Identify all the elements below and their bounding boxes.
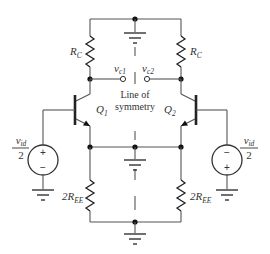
symmetry-label-line1: Line of — [120, 89, 150, 100]
source-right-numerator: vid — [244, 134, 255, 148]
q2-label: Q2 — [164, 103, 176, 118]
source-left-denominator: 2 — [18, 149, 24, 161]
resistor-rc-left — [86, 36, 94, 67]
ground-icon — [216, 190, 238, 200]
ground-icon — [124, 147, 146, 170]
ree-right-label: 2REE — [190, 190, 212, 205]
q1-label: Q1 — [96, 103, 108, 118]
rc-right-label: RC — [189, 45, 203, 60]
source-right-denominator: 2 — [246, 149, 252, 161]
transistor-q2 — [181, 79, 227, 147]
source-left-plus: + — [40, 147, 46, 158]
ground-icon — [32, 190, 54, 200]
symmetry-label-line2: symmetry — [115, 101, 155, 112]
ground-icon — [124, 222, 146, 244]
source-left-minus: − — [40, 162, 46, 173]
resistor-ree-right — [177, 180, 185, 211]
ree-left-label: 2REE — [62, 190, 84, 205]
ground-icon — [124, 19, 146, 43]
resistor-ree-left — [86, 180, 94, 211]
source-right-minus: − — [224, 147, 230, 158]
vc1-label: vc1 — [114, 62, 126, 76]
source-left-numerator: vid — [16, 134, 27, 148]
output-terminal-vc2 — [144, 76, 149, 81]
rc-left-label: RC — [69, 45, 83, 60]
vc2-label: vc2 — [142, 62, 154, 76]
output-terminal-vc1 — [120, 76, 125, 81]
source-right-plus: + — [224, 162, 230, 173]
resistor-rc-right — [177, 36, 185, 67]
transistor-q1 — [43, 79, 90, 147]
differential-amplifier-diagram: RC RC vc1 vc2 Line of symmetry Q1 — [0, 0, 270, 254]
